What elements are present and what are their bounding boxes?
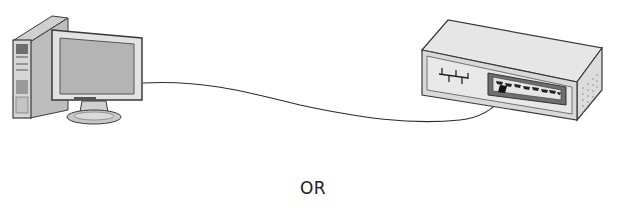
network-switch-icon bbox=[422, 20, 602, 120]
or-caption: OR bbox=[0, 178, 626, 198]
